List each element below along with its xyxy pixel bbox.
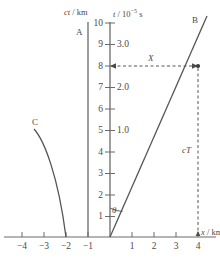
ct-tick-label-5: 5 (83, 126, 103, 136)
diagram-canvas (0, 0, 220, 259)
x-tick-label-neg2: −2 (58, 242, 74, 252)
ct-tick-label-6: 6 (83, 105, 103, 115)
ct-tick-label-2: 2 (83, 191, 103, 201)
x-axis-title-unit: km (211, 227, 220, 237)
x-axis-title: x / km (201, 228, 220, 237)
ct-axis-title-sep: / (70, 7, 77, 17)
theta-label: θ (112, 206, 116, 215)
t-axis-title: t / 10−5 s (113, 8, 142, 18)
x-tick-label-2: 2 (146, 242, 162, 252)
x-tick-label-neg4: −4 (14, 242, 30, 252)
ct-axis-title: ct / km (64, 8, 88, 17)
ct-tick-label-10: 10 (83, 19, 103, 29)
ct-tick-label-4: 4 (83, 148, 103, 158)
t-axis-ticks (110, 23, 115, 217)
ct-tick-label-3: 3 (83, 169, 103, 179)
worldline-a-label: A (76, 28, 83, 37)
t-tick-label-3-0: 3.0 (117, 40, 129, 50)
span-ct-label: cT (182, 146, 191, 155)
ct-tick-label-9: 9 (83, 40, 103, 50)
ct-tick-label-8: 8 (83, 62, 103, 72)
t-tick-label-1-0: 1.0 (117, 126, 129, 136)
ct-axis-title-unit: km (77, 7, 88, 17)
t-axis-title-unit-base: 10 (122, 9, 131, 19)
event-point-marker (196, 64, 200, 68)
x-tick-label-3: 3 (168, 242, 184, 252)
worldline-c-label: C (32, 118, 38, 127)
span-x-left-arrowhead (110, 63, 116, 68)
ct-tick-label-1: 1 (83, 212, 103, 222)
span-x-label: X (148, 54, 154, 63)
t-tick-label-2-0: 2.0 (117, 83, 129, 93)
ct-tick-label-7: 7 (83, 83, 103, 93)
spacetime-diagram-figure: ct / km t / 10−5 s x / km 1 2 3 4 5 6 7 … (0, 0, 220, 259)
t-axis-title-unit-suffix: s (137, 9, 142, 19)
worldline-c (34, 129, 66, 237)
t-axis-title-sep: / (115, 9, 122, 19)
worldline-b-label: B (192, 16, 198, 25)
x-tick-label-neg3: −3 (36, 242, 52, 252)
x-tick-label-4: 4 (190, 242, 206, 252)
x-tick-label-1: 1 (124, 242, 140, 252)
ct-axis-ticks (105, 23, 110, 217)
x-tick-label-neg1: −1 (80, 242, 96, 252)
